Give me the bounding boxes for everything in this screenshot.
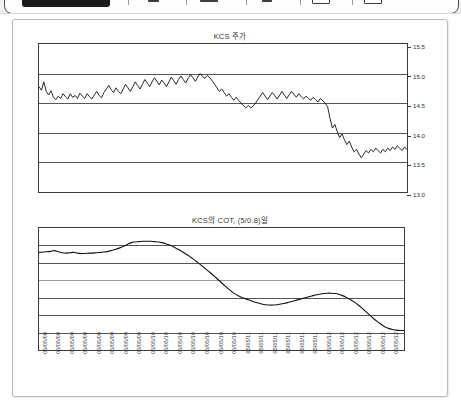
- x-axis-tick-label: 05/05/12: [353, 332, 359, 354]
- x-axis-tick-label: 05/05/10: [231, 332, 237, 354]
- toolbar-separator: [186, 0, 187, 5]
- tick-mark: [407, 106, 411, 107]
- y-axis-tick-label: 14.5: [413, 102, 425, 109]
- x-axis-tick-label: 05/05/09: [109, 332, 115, 354]
- toolbar-separator: [246, 0, 247, 5]
- chart-price-title: KCS 주가: [13, 30, 447, 41]
- tick-mark: [407, 165, 411, 166]
- x-axis-tick-label: 05/05/09: [96, 332, 102, 354]
- x-axis-tick-label: 05/05/12: [326, 332, 332, 354]
- y-axis-tick-label: 15.5: [413, 43, 425, 50]
- viewer-toolbar[interactable]: [0, 0, 461, 14]
- x-axis-tick-label: 05/05/12: [393, 332, 399, 354]
- y-axis-tick-label: 13.0: [413, 191, 425, 198]
- y-axis-tick: 15.0: [407, 73, 425, 80]
- x-axis-tick-label: 05/05/08: [42, 332, 48, 354]
- x-axis-tick-label: 05/05/08: [55, 332, 61, 354]
- y-axis-tick: 14.5: [407, 102, 425, 109]
- x-axis-tick-label: 05/05/09: [69, 332, 75, 354]
- x-axis-tick-label: 05/05/10: [190, 332, 196, 354]
- zoom-out-icon[interactable]: [312, 0, 330, 4]
- x-axis-tick-label: 05/05/11: [272, 332, 278, 353]
- x-axis-tick-label: 05/05/11: [285, 332, 291, 353]
- zoom-in-icon[interactable]: [364, 0, 382, 4]
- toolbar-active-tool-group[interactable]: [22, 0, 110, 7]
- x-axis-tick-label: 05/05/12: [339, 332, 345, 354]
- tick-mark: [407, 136, 411, 137]
- toolbar-separator: [128, 0, 129, 5]
- x-axis-tick-label: 05/05/10: [177, 332, 183, 354]
- y-axis-tick: 15.5: [407, 43, 425, 50]
- x-axis-tick-label: 05/05/12: [366, 332, 372, 354]
- chart-price-line: [39, 74, 407, 158]
- chart-price: KCS 주가 15.515.014.514.013.513.0: [13, 24, 447, 210]
- x-axis-tick-label: 05/05/11: [312, 332, 318, 353]
- chart-price-plot-area: [38, 43, 408, 193]
- tick-mark: [407, 195, 411, 196]
- toolbar-separator: [352, 0, 353, 5]
- x-axis-tick-label: 05/05/10: [204, 332, 210, 354]
- x-axis-tick-label: 05/05/09: [123, 332, 129, 354]
- x-axis-tick-label: 05/05/11: [258, 332, 264, 353]
- x-axis-tick-label: 05/05/09: [82, 332, 88, 354]
- chart-x-axis: 05/05/0805/05/0805/05/0905/05/0905/05/09…: [38, 332, 403, 390]
- page-wide-icon[interactable]: [200, 0, 218, 2]
- chart-cot-line: [39, 241, 404, 330]
- chart-cot-title: KCS의 COT, (5/0.8)일: [13, 214, 447, 225]
- chart-price-series-svg: [39, 44, 407, 192]
- y-axis-tick-label: 13.5: [413, 161, 425, 168]
- tick-mark: [407, 76, 411, 77]
- toolbar-separator: [300, 0, 301, 5]
- x-axis-tick-label: 05/05/09: [136, 332, 142, 354]
- x-axis-tick-label: 05/05/11: [245, 332, 251, 353]
- y-axis-tick: 14.0: [407, 132, 425, 139]
- tick-mark: [407, 47, 411, 48]
- y-axis-tick: 13.0: [407, 191, 425, 198]
- document-page: KCS 주가 15.515.014.514.013.513.0 KCS의 COT…: [12, 19, 448, 397]
- y-axis-tick-label: 14.0: [413, 132, 425, 139]
- chart-cot-y-axis: 15.0%10.0%5.0%0.0%-5.0%-10.0%-15.0%-20.0…: [404, 220, 447, 356]
- x-axis-tick-label: 05/05/10: [150, 332, 156, 354]
- page-icon[interactable]: [148, 0, 159, 2]
- chart-price-y-axis: 15.515.014.514.013.513.0: [407, 36, 447, 198]
- cursor-icon[interactable]: [262, 0, 272, 2]
- x-axis-tick-label: 05/05/12: [380, 332, 386, 354]
- x-axis-tick-label: 05/05/10: [218, 332, 224, 354]
- x-axis-tick-label: 05/05/10: [163, 332, 169, 354]
- y-axis-tick-label: 15.0: [413, 73, 425, 80]
- y-axis-tick: 13.5: [407, 161, 425, 168]
- x-axis-tick-label: 05/05/11: [299, 332, 305, 353]
